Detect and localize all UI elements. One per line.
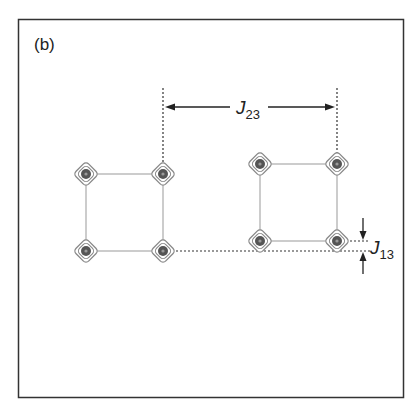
right-multiplet-connectors xyxy=(260,164,337,241)
right-multiplet-peak-bottom-right xyxy=(324,228,349,253)
j13-arrow-top-head xyxy=(360,231,367,240)
j23-arrow-right-head xyxy=(325,104,335,111)
j13-arrow-bottom-head xyxy=(360,252,367,261)
right-multiplet-peak-bottom-left xyxy=(247,228,272,253)
j23-arrow-left-head xyxy=(165,104,175,111)
peaks xyxy=(73,151,349,263)
right-multiplet-peak-top-right xyxy=(324,151,349,176)
j13-label: J13 xyxy=(369,237,394,262)
cosy-multiplet-diagram: (b) J23 J13 xyxy=(0,0,418,416)
right-multiplet-peak-top-left xyxy=(247,151,272,176)
plot-frame xyxy=(19,20,404,398)
left-multiplet-connectors xyxy=(86,174,163,251)
left-multiplet-peak-bottom-right xyxy=(150,238,175,263)
panel-label: (b) xyxy=(34,35,55,54)
left-multiplet-peak-top-left xyxy=(73,161,98,186)
j23-label: J23 xyxy=(235,97,260,122)
left-multiplet-peak-bottom-left xyxy=(73,238,98,263)
left-multiplet-peak-top-right xyxy=(150,161,175,186)
